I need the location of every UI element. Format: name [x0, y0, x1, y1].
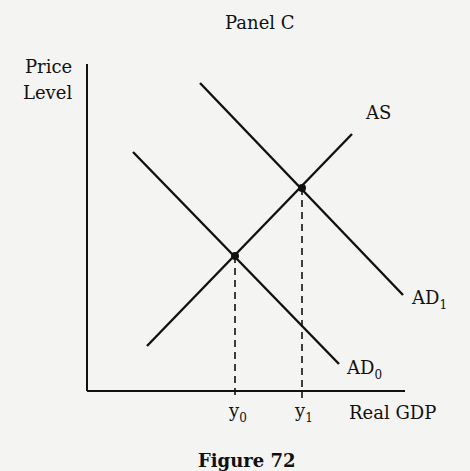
- as-label: AS: [366, 102, 391, 123]
- equilibrium-point-1: [298, 184, 306, 192]
- x-axis-label: Real GDP: [349, 402, 436, 423]
- tick-y0-sub: 0: [239, 411, 247, 425]
- tick-y1-base: y: [295, 400, 305, 421]
- tick-y0: y0: [229, 400, 247, 425]
- as-curve: [147, 134, 352, 346]
- figure-caption: Figure 72: [198, 450, 296, 471]
- ad1-label: AD1: [412, 287, 447, 312]
- ad1-label-base: AD: [412, 287, 439, 308]
- ad0-label-base: AD: [347, 357, 374, 378]
- ad0-label-sub: 0: [374, 368, 382, 382]
- tick-y1-sub: 1: [305, 411, 313, 425]
- tick-y0-base: y: [229, 400, 239, 421]
- tick-y1: y1: [295, 400, 313, 425]
- equilibrium-point-0: [231, 252, 239, 260]
- ad1-label-sub: 1: [439, 298, 447, 312]
- ad0-label: AD0: [347, 357, 382, 382]
